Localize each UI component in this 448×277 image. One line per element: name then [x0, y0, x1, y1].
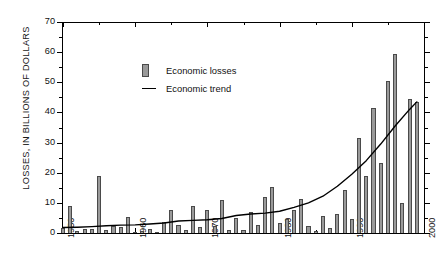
y-tick-label-30: 30: [29, 138, 55, 147]
y-tick-label-20: 20: [29, 168, 55, 177]
legend-label: Economic losses: [166, 65, 236, 76]
y-tick-right-40: [425, 112, 430, 113]
y-tick-right-35: [425, 128, 428, 129]
y-tick-right-65: [425, 37, 428, 38]
y-tick-label-0: 0: [29, 228, 55, 237]
x-tick-label-2000: 2000: [428, 218, 437, 238]
y-tick-label-60: 60: [29, 47, 55, 56]
y-tick-right-25: [425, 158, 428, 159]
y-tick-label-10: 10: [29, 198, 55, 207]
y-tick-label-70: 70: [29, 17, 55, 26]
line-swatch-icon: [142, 88, 156, 89]
plot-area: 010203040506070 195019601970198019902000…: [62, 22, 425, 234]
y-tick-label-40: 40: [29, 107, 55, 116]
y-tick-label-50: 50: [29, 77, 55, 86]
bar-swatch-icon: [142, 64, 149, 77]
y-tick-right-10: [425, 203, 430, 204]
y-tick-right-60: [425, 52, 430, 53]
economic-losses-chart: LOSSES, IN BILLIONS OF DOLLARS 010203040…: [0, 0, 448, 277]
y-tick-right-15: [425, 188, 428, 189]
y-tick-right-20: [425, 173, 430, 174]
y-tick-right-45: [425, 97, 428, 98]
line-series-economic-trend: [62, 22, 425, 234]
legend-label: Economic trend: [166, 83, 231, 94]
y-tick-right-50: [425, 82, 430, 83]
y-tick-right-30: [425, 143, 430, 144]
y-tick-right-55: [425, 67, 428, 68]
y-tick-right-70: [425, 22, 430, 23]
